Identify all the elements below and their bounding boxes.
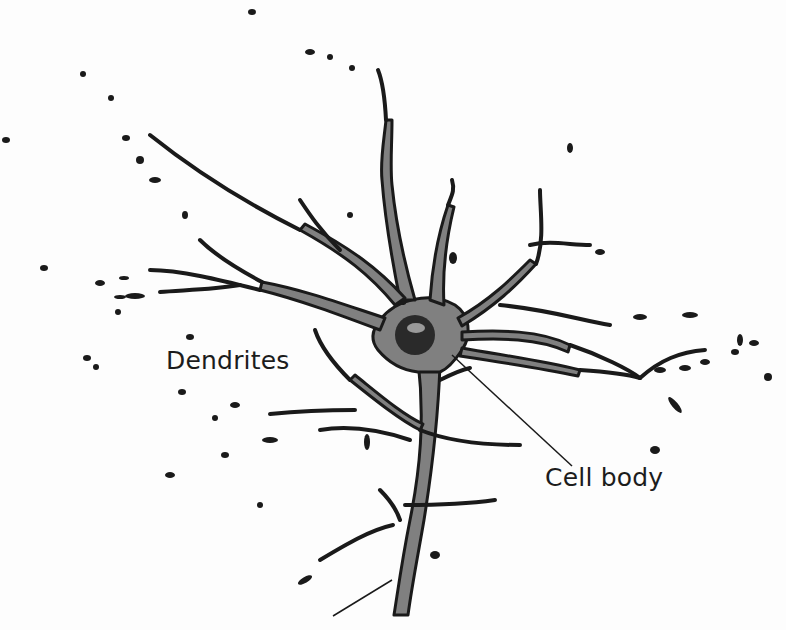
dendrites-label: Dendrites [166,346,290,375]
dendrite-right-1 [458,260,536,326]
neuron-diagram: Dendrites Cell body [0,0,786,630]
dendrite-right-2 [462,331,570,352]
dendrite-up [381,120,415,300]
axon-leader-line [333,580,392,616]
nucleolus [407,323,425,333]
dendrite-right-3 [460,348,580,376]
nucleus [395,315,435,355]
cell-body-label: Cell body [545,463,663,492]
axon [394,360,440,615]
neuron-illustration [0,0,786,630]
dendrite-lower-left [350,375,423,430]
dendrite-left [260,282,385,330]
